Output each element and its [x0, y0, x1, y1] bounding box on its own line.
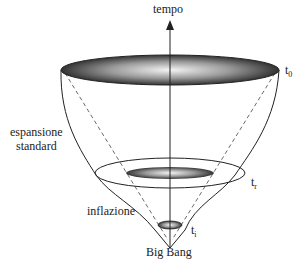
- label-t0: t0: [285, 64, 292, 81]
- label-tr: tr: [251, 176, 257, 193]
- label-t0-sub: 0: [288, 70, 292, 79]
- label-inflation: inflazione: [87, 205, 135, 218]
- label-tr-sub: r: [254, 182, 257, 191]
- label-standard-expansion-1: espansione: [10, 126, 63, 139]
- inflation-diagram: tempo t0 tr ti espansione standard infla…: [0, 0, 300, 265]
- time-axis-arrow-icon: [166, 20, 174, 30]
- label-standard-expansion-2: standard: [16, 140, 57, 153]
- label-big-bang: Big Bang: [146, 246, 192, 259]
- axis-label-tempo: tempo: [153, 3, 183, 16]
- label-ti-sub: i: [194, 230, 196, 239]
- dashed-line-right: [172, 73, 275, 240]
- label-ti: ti: [191, 224, 197, 241]
